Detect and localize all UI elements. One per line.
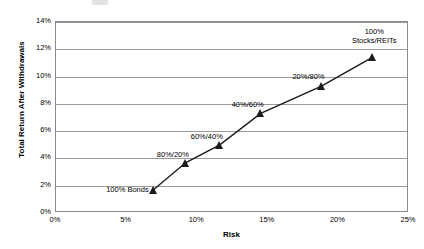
x-axis-tick-label: 0% bbox=[35, 215, 75, 224]
x-axis-tick-label: 10% bbox=[176, 215, 216, 224]
data-point-marker bbox=[317, 82, 325, 90]
cropped-title-artifact bbox=[92, 0, 108, 5]
data-point-label: 80%/20% bbox=[133, 150, 213, 159]
chart-container: Total Return After Withdrawals 0%2%4%6%8… bbox=[0, 0, 424, 249]
y-axis-tick-label: 8% bbox=[21, 99, 51, 107]
data-point-label: 40%/60% bbox=[208, 100, 288, 109]
data-point-marker bbox=[368, 53, 376, 61]
x-axis-tick-label: 5% bbox=[106, 215, 146, 224]
y-axis-tick-label: 6% bbox=[21, 126, 51, 134]
y-axis-tick-label: 14% bbox=[21, 17, 51, 25]
x-axis-title: Risk bbox=[55, 230, 408, 239]
y-axis-tick-labels: 0%2%4%6%8%10%12%14% bbox=[18, 21, 51, 212]
data-point-marker bbox=[256, 109, 264, 117]
y-axis-tick-label: 4% bbox=[21, 153, 51, 161]
x-axis-tick-labels: 0%5%10%15%20%25% bbox=[55, 215, 408, 227]
y-axis-tick-label: 10% bbox=[21, 72, 51, 80]
data-point-marker bbox=[215, 141, 223, 149]
data-point-label: 20%/80% bbox=[268, 72, 348, 81]
plot-area: 100% Bonds80%/20%60%/40%40%/60%20%/80%10… bbox=[55, 21, 408, 212]
x-axis-tick-label: 20% bbox=[317, 215, 357, 224]
data-point-marker bbox=[181, 159, 189, 167]
data-point-label: 60%/40% bbox=[167, 132, 247, 141]
x-axis-tick-label: 15% bbox=[247, 215, 287, 224]
y-axis-tick-label: 2% bbox=[21, 181, 51, 189]
x-axis-tick-label: 25% bbox=[388, 215, 424, 224]
data-point-label: 100% Bonds bbox=[87, 185, 167, 194]
data-point-label: 100%Stocks/REITs bbox=[334, 27, 414, 45]
y-axis-tick-label: 12% bbox=[21, 44, 51, 52]
